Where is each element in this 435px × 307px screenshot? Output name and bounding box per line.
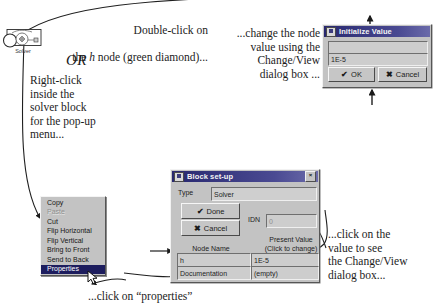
done-button[interactable]: ✔ Done	[181, 203, 240, 219]
screenshot-canvas: Solver Double-click on the h node (green…	[0, 0, 435, 307]
menu-item-flip-vertical[interactable]: Flip Vertical	[41, 236, 105, 246]
x-icon: ✖	[194, 224, 201, 233]
block-setup-title: Block set-up	[187, 172, 305, 181]
context-menu[interactable]: Copy Paste Cut Flip Horizontal Flip Vert…	[40, 196, 106, 276]
initialize-value-dialog[interactable]: Initialize Value 1E-5 ✔ OK ✖ Cancel	[322, 24, 432, 88]
idn-label: IDN	[248, 216, 260, 223]
menu-item-paste: Paste	[41, 208, 105, 218]
node-name-field[interactable]: h	[177, 253, 251, 267]
cancel-button[interactable]: ✖ Cancel	[181, 220, 240, 236]
close-icon[interactable]: ×	[305, 171, 316, 182]
window-icon	[174, 172, 184, 182]
initialize-value-ok-button[interactable]: ✔ OK	[328, 67, 375, 82]
solver-block-graphic[interactable]: Solver	[2, 27, 44, 54]
menu-item-flip-horizontal[interactable]: Flip Horizontal	[41, 227, 105, 237]
done-label: Done	[207, 207, 225, 216]
documentation-label-field: Documentation	[177, 266, 251, 280]
annotation-double-click-line1: Double-click on	[48, 24, 208, 38]
menu-item-bring-to-front[interactable]: Bring to Front	[41, 246, 105, 256]
annotation-change-value: ...change the node value using the Chang…	[212, 27, 320, 81]
initialize-value-titlebar: Initialize Value	[324, 26, 430, 37]
solver-block-icon	[2, 27, 44, 49]
type-field[interactable]: Solver	[211, 187, 317, 201]
type-label: Type	[178, 189, 193, 196]
initialize-value-title: Initialize Value	[339, 27, 428, 36]
annotation-click-value: ...click on the value to see the Change/…	[328, 228, 432, 282]
present-value-label: Present Value (Click to change)	[255, 236, 327, 253]
initialize-value-cancel-button[interactable]: ✖ Cancel	[378, 67, 427, 82]
window-icon	[326, 27, 336, 37]
annotation-or: OR	[66, 52, 87, 69]
cancel-label: Cancel	[204, 224, 227, 233]
annotation-double-click-line2-post: node (green diamond)...	[95, 51, 208, 63]
initialize-value-input[interactable]: 1E-5	[328, 53, 428, 66]
present-value-label-line2: (Click to change)	[255, 245, 327, 254]
menu-item-copy[interactable]: Copy	[41, 198, 105, 208]
block-setup-dialog[interactable]: Block set-up × Type Solver ✔ Done ✖ Canc…	[170, 169, 320, 283]
mouse-cursor-icon	[87, 270, 99, 286]
present-value-field[interactable]: 1E-5	[251, 253, 319, 267]
node-name-label: Node Name	[177, 245, 245, 252]
menu-item-cut[interactable]: Cut	[41, 217, 105, 227]
check-icon: ✔	[197, 207, 204, 216]
menu-item-send-to-back[interactable]: Send to Back	[41, 255, 105, 265]
solver-block-caption: Solver	[2, 48, 44, 54]
x-icon: ✖	[386, 70, 393, 79]
initialize-value-cancel-label: Cancel	[396, 70, 419, 79]
annotation-click-properties: ...click on “properties”	[88, 290, 238, 304]
documentation-value-field[interactable]: (empty)	[251, 266, 319, 280]
block-setup-titlebar: Block set-up ×	[172, 171, 318, 182]
annotation-right-click: Right-click inside the solver block for …	[30, 74, 135, 142]
check-icon: ✔	[341, 70, 348, 79]
idn-field[interactable]: 0	[266, 214, 317, 228]
present-value-label-line1: Present Value	[255, 236, 327, 245]
initialize-value-ok-label: OK	[351, 70, 362, 79]
